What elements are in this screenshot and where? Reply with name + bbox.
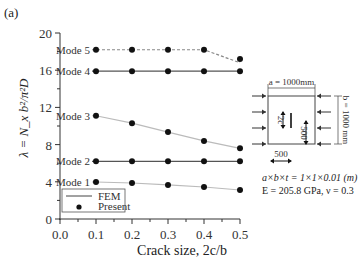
y-tick-label: 16 [39, 63, 53, 78]
present-marker [237, 145, 243, 151]
y-tick-label: 12 [39, 100, 52, 115]
arrowhead-icon [262, 94, 266, 99]
present-marker [237, 68, 243, 74]
x-tick-label: 0.1 [88, 227, 104, 242]
present-marker [201, 68, 207, 74]
buckling-chart: 0481216200.00.10.20.30.40.5Mode 1Mode 2M… [0, 0, 362, 268]
dim-500-v-label: 500 [299, 126, 309, 140]
present-marker [165, 129, 171, 135]
arrowhead-icon [317, 110, 321, 115]
plate-parameters: a×b×t = 1×1×0.01 (m) E = 205.8 GPa, ν = … [262, 171, 357, 197]
present-marker [201, 47, 207, 53]
legend-present-marker [76, 204, 81, 209]
arrowhead-icon [317, 142, 321, 147]
present-marker [237, 56, 243, 62]
y-tick-label: 4 [46, 175, 53, 190]
present-marker [129, 180, 135, 186]
present-marker [129, 47, 135, 53]
present-marker [129, 158, 135, 164]
present-marker [201, 158, 207, 164]
x-tick-label: 0.3 [160, 227, 176, 242]
present-marker [165, 68, 171, 74]
arrowhead-icon [317, 126, 321, 131]
y-tick-label: 8 [46, 138, 53, 153]
mode-label: Mode 3 [56, 110, 90, 122]
x-axis-label: Crack size, 2c/b [92, 243, 272, 259]
dim-a-label: a = 1000mm [269, 77, 315, 87]
y-tick-label: 0 [46, 212, 53, 227]
crack-label: 2c [276, 116, 286, 125]
mode-label: Mode 1 [56, 176, 90, 188]
present-marker [165, 47, 171, 53]
mode-label: Mode 5 [56, 44, 90, 56]
arrowhead-icon [262, 110, 266, 115]
present-marker [165, 158, 171, 164]
dim-500-h-label: 500 [274, 149, 288, 159]
x-tick-label: 0.4 [196, 227, 213, 242]
x-tick-label: 0.0 [52, 227, 68, 242]
present-marker [93, 68, 99, 74]
x-tick-label: 0.5 [232, 227, 248, 242]
present-marker [237, 187, 243, 193]
present-marker [129, 120, 135, 126]
y-axis-label: λ = N_x b²/π²D [16, 38, 32, 198]
present-marker [93, 113, 99, 119]
mode-label: Mode 4 [56, 65, 90, 77]
dimensions-text: a×b×t = 1×1×0.01 (m) [262, 171, 357, 184]
arrowhead-icon [262, 126, 266, 131]
mode-label: Mode 2 [56, 155, 90, 167]
material-text: E = 205.8 GPa, ν = 0.3 [262, 184, 357, 197]
arrowhead-icon [317, 94, 321, 99]
y-tick-label: 20 [39, 26, 52, 41]
present-marker [93, 47, 99, 53]
arrowhead-icon [262, 142, 266, 147]
present-marker [201, 184, 207, 190]
present-marker [93, 179, 99, 185]
present-marker [237, 158, 243, 164]
present-marker [201, 138, 207, 144]
dim-b-label: b = 1000 mm [341, 96, 351, 144]
legend-present-label: Present [98, 200, 130, 212]
present-marker [93, 158, 99, 164]
present-marker [165, 182, 171, 188]
present-marker [129, 68, 135, 74]
x-tick-label: 0.2 [124, 227, 140, 242]
